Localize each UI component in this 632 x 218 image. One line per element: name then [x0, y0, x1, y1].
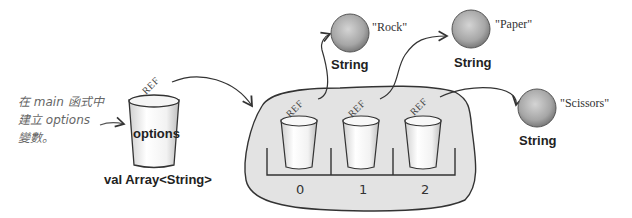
- slot-cup-2: [405, 116, 441, 169]
- string-type-rock: String: [331, 57, 369, 72]
- annotation-line-1: 在 main 函式中: [18, 95, 105, 109]
- string-type-paper: String: [454, 55, 492, 70]
- string-type-scissors: String: [519, 133, 557, 148]
- slot-cup-1: [343, 116, 379, 169]
- options-cup-label: options: [133, 126, 180, 141]
- diagram-canvas: 在 main 函式中 建立 options 變數。 options val Ar…: [0, 0, 632, 218]
- string-value-rock: "Rock": [372, 20, 407, 34]
- string-sphere-rock: [331, 14, 369, 52]
- variable-type-label: val Array<String>: [104, 172, 212, 187]
- string-value-paper: "Paper": [495, 17, 532, 31]
- string-value-scissors: "Scissors": [560, 96, 609, 110]
- options-ref-arrow: [172, 77, 252, 106]
- annotation-line-3: 變數。: [18, 131, 54, 145]
- slot-index-2: 2: [421, 182, 429, 197]
- slot-index-0: 0: [296, 182, 304, 197]
- string-sphere-paper: [452, 10, 490, 48]
- annotation-line-2: 建立 options: [18, 113, 90, 127]
- string-sphere-scissors: [518, 89, 556, 127]
- slot-index-1: 1: [359, 182, 367, 197]
- slot-cup-0: [281, 116, 317, 169]
- options-ref-label: REF: [140, 75, 162, 97]
- annotation-arrow: [100, 123, 124, 125]
